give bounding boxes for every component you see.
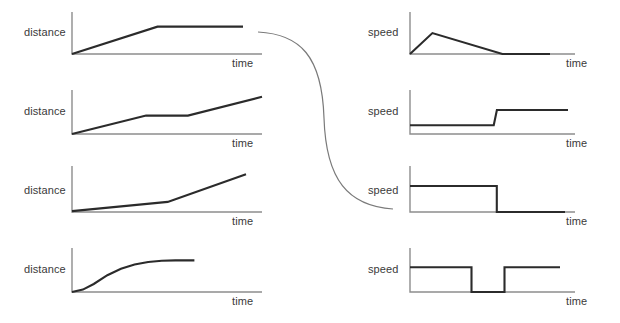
speed-chart-4-axes	[410, 248, 575, 292]
speed-chart-4-x-axis-label: time	[566, 295, 587, 307]
speed-chart-4-plot	[0, 0, 620, 323]
speed-chart-4-dataline	[410, 267, 560, 292]
worksheet-page: distancetimedistancetimedistancetimedist…	[0, 0, 620, 323]
speed-chart-4-y-axis-label: speed	[368, 263, 398, 275]
